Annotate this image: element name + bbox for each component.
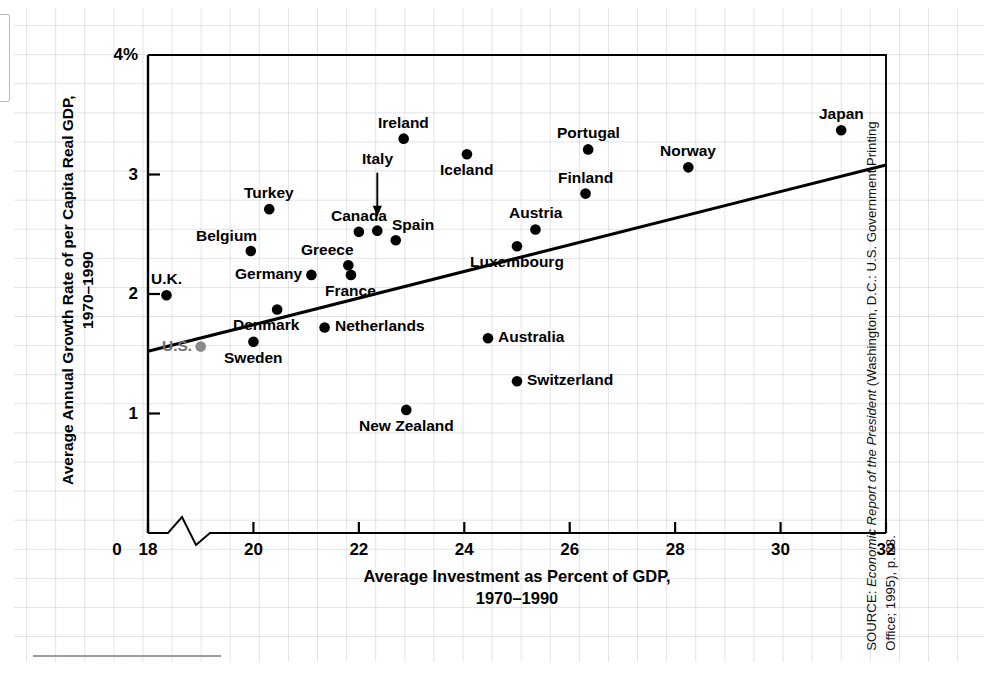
data-point-austria[interactable] (530, 224, 541, 235)
data-point-u-k[interactable] (161, 290, 172, 301)
data-point-sweden[interactable] (248, 337, 259, 348)
scatter-plot-figure: U.K.U.S.BelgiumSwedenTurkeyDenmarkGerman… (0, 0, 1002, 684)
footnote-rule (33, 655, 221, 657)
x-tick-22: 22 (349, 540, 368, 560)
point-label-germany: Germany (235, 266, 302, 282)
point-label-u-k: U.K. (151, 271, 182, 287)
point-label-japan: Japan (819, 106, 864, 122)
point-label-sweden: Sweden (224, 350, 283, 366)
y-tick-1: 1 (92, 404, 138, 424)
x-axis-title: Average Investment as Percent of GDP, 19… (148, 566, 886, 610)
data-point-spain[interactable] (390, 235, 401, 246)
point-label-u-s: U.S. (162, 338, 192, 354)
point-label-france: France (325, 283, 376, 299)
data-point-germany[interactable] (306, 270, 317, 281)
data-point-belgium[interactable] (245, 246, 256, 257)
data-point-turkey[interactable] (264, 204, 275, 215)
data-point-greece[interactable] (343, 260, 354, 271)
y-tick-3: 3 (92, 165, 138, 185)
point-label-switzerland: Switzerland (527, 372, 613, 388)
data-point-portugal[interactable] (583, 144, 594, 155)
data-point-france[interactable] (346, 270, 357, 281)
point-label-austria: Austria (509, 205, 562, 221)
point-label-spain: Spain (392, 217, 434, 233)
data-point-netherlands[interactable] (319, 322, 330, 333)
data-point-australia[interactable] (483, 333, 494, 344)
data-point-u-s[interactable] (195, 341, 206, 352)
y-axis-title-line1: Average Annual Growth Rate of per Capita… (58, 40, 78, 540)
point-label-new-zealand: New Zealand (359, 418, 454, 434)
point-label-finland: Finland (558, 170, 613, 186)
point-label-norway: Norway (660, 143, 716, 159)
data-point-japan[interactable] (836, 125, 847, 136)
point-label-greece: Greece (301, 242, 354, 258)
y-axis-title: Average Annual Growth Rate of per Capita… (58, 40, 98, 540)
x-tick-24: 24 (455, 540, 474, 560)
point-label-denmark: Denmark (233, 317, 299, 333)
x-axis-title-line1: Average Investment as Percent of GDP, (148, 566, 886, 588)
x-tick-30: 30 (771, 540, 790, 560)
x-tick-28: 28 (666, 540, 685, 560)
source-prefix: SOURCE: (864, 587, 879, 651)
y-tick-2: 2 (92, 284, 138, 304)
point-label-iceland: Iceland (440, 162, 493, 178)
point-label-belgium: Belgium (196, 228, 257, 244)
point-label-turkey: Turkey (244, 185, 294, 201)
point-label-netherlands: Netherlands (335, 318, 425, 334)
data-point-canada[interactable] (354, 227, 365, 238)
x-tick-26: 26 (560, 540, 579, 560)
point-label-italy: Italy (362, 151, 393, 167)
data-point-luxembourg[interactable] (512, 241, 523, 252)
data-point-ireland[interactable] (398, 133, 409, 144)
data-point-finland[interactable] (580, 188, 591, 199)
x-tick-20: 20 (244, 540, 263, 560)
axes-group (148, 55, 886, 545)
data-point-switzerland[interactable] (512, 376, 523, 387)
data-point-italy[interactable] (372, 225, 383, 236)
point-label-australia: Australia (498, 329, 564, 345)
data-point-new-zealand[interactable] (401, 405, 412, 416)
point-label-luxembourg: Luxembourg (470, 254, 564, 270)
x-tick-18: 18 (139, 540, 158, 560)
source-title: Economic Report of the President (864, 390, 879, 587)
source-citation: SOURCE: Economic Report of the President… (863, 91, 900, 651)
y-tick-4%: 4% (92, 45, 138, 65)
point-label-ireland: Ireland (378, 115, 429, 131)
data-point-denmark[interactable] (272, 304, 283, 315)
data-point-iceland[interactable] (462, 149, 473, 160)
x-axis-title-line2: 1970–1990 (148, 588, 886, 610)
point-label-portugal: Portugal (557, 125, 620, 141)
x-tick-0: 0 (112, 540, 121, 560)
point-label-canada: Canada (331, 208, 387, 224)
data-point-norway[interactable] (683, 162, 694, 173)
y-axis-title-line2: 1970–1990 (78, 40, 98, 540)
